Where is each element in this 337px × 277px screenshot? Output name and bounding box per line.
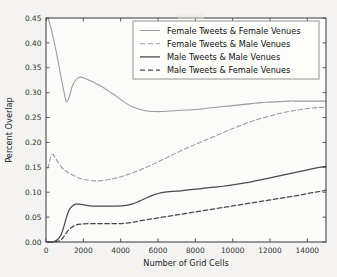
y-tick-label: 0.00 — [25, 238, 42, 247]
legend-label-0: Female Tweets & Female Venues — [167, 26, 301, 36]
x-tick-label: 8000 — [186, 246, 205, 255]
y-axis-label: Percent Overlap — [4, 97, 14, 163]
y-tick-label: 0.25 — [25, 113, 42, 122]
y-tick-label: 0.05 — [25, 213, 42, 222]
x-tick-label: 0 — [44, 246, 49, 255]
chart-svg: 020004000600080001000012000140000.000.05… — [0, 0, 337, 277]
y-tick-label: 0.20 — [25, 138, 42, 147]
y-tick-label: 0.30 — [25, 88, 42, 97]
y-tick-label: 0.15 — [25, 163, 42, 172]
x-tick-label: 10000 — [221, 246, 245, 255]
x-tick-label: 6000 — [149, 246, 168, 255]
legend-label-2: Male Tweets & Male Venues — [167, 52, 280, 62]
legend-label-1: Female Tweets & Male Venues — [167, 39, 290, 49]
y-tick-label: 0.10 — [25, 188, 42, 197]
y-tick-label: 0.45 — [25, 14, 42, 23]
x-tick-label: 2000 — [74, 246, 93, 255]
x-tick-label: 14000 — [296, 246, 320, 255]
y-tick-label: 0.40 — [25, 39, 42, 48]
x-tick-label: 12000 — [258, 246, 282, 255]
chart-figure: 020004000600080001000012000140000.000.05… — [0, 0, 337, 277]
legend-label-3: Male Tweets & Female Venues — [167, 65, 290, 75]
y-tick-label: 0.35 — [25, 63, 42, 72]
x-axis-label: Number of Grid Cells — [143, 258, 228, 268]
x-tick-label: 4000 — [111, 246, 130, 255]
